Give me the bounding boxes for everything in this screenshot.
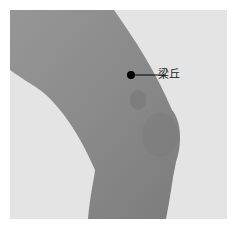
knee-photo [10, 10, 227, 219]
acupoint-label: 梁丘 [158, 69, 180, 80]
leg-illustration [10, 10, 227, 219]
